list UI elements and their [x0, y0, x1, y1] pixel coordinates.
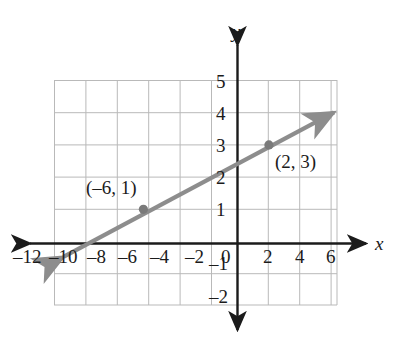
- y-tick-label-neg2: –2: [209, 287, 228, 306]
- point-label-2-3: (2, 3): [275, 152, 316, 171]
- y-tick-label-3: 3: [216, 136, 226, 155]
- graph-canvas: [0, 0, 398, 345]
- x-tick-label-neg2: –2: [185, 247, 204, 266]
- point-label-neg6-1: (–6, 1): [86, 178, 137, 197]
- x-tick-label-neg6: –6: [118, 247, 137, 266]
- x-tick-label-neg4: –4: [150, 247, 169, 266]
- origin-label: 0: [221, 247, 231, 266]
- coordinate-plane-figure: 5 4 3 2 1 –1 –2 0 –12 –10 –8 –6 –4 –2 2 …: [0, 0, 398, 345]
- y-tick-label-4: 4: [216, 104, 226, 123]
- x-tick-label-neg10: –10: [49, 247, 78, 266]
- x-tick-label-2: 2: [263, 247, 273, 266]
- x-axis-label: x: [375, 234, 383, 253]
- x-tick-label-neg12: –12: [13, 247, 42, 266]
- x-tick-label-4: 4: [295, 247, 305, 266]
- y-axis-label: y: [232, 22, 240, 41]
- x-tick-label-neg8: –8: [87, 247, 106, 266]
- x-tick-label-6: 6: [326, 247, 336, 266]
- data-point-marker: [264, 140, 273, 149]
- data-point-marker: [139, 205, 148, 214]
- y-tick-label-1: 1: [216, 200, 226, 219]
- y-tick-label-5: 5: [216, 72, 226, 91]
- y-tick-label-2: 2: [216, 168, 226, 187]
